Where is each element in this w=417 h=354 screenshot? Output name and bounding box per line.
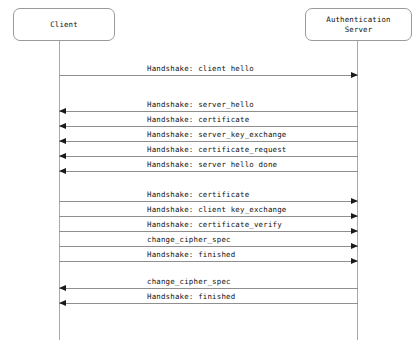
message-label: change_cipher_spec <box>147 277 231 286</box>
message-label: Handshake: client key_exchange <box>147 205 287 214</box>
message-label: Handshake: server_key_exchange <box>147 130 287 139</box>
arrow-left-icon <box>59 108 66 114</box>
arrow-right-icon <box>351 213 358 219</box>
message-line <box>59 75 358 76</box>
lifeline-client <box>59 41 60 340</box>
message-line <box>59 261 358 262</box>
message-line <box>59 231 358 232</box>
message-line <box>59 171 358 172</box>
arrow-right-icon <box>351 72 358 78</box>
arrow-left-icon <box>59 300 66 306</box>
message-label: Handshake: server_hello <box>147 100 254 109</box>
arrow-right-icon <box>351 243 358 249</box>
message-label: Handshake: client hello <box>147 64 254 73</box>
arrow-left-icon <box>59 285 66 291</box>
message-label: Handshake: certificate_verify <box>147 220 282 229</box>
message-line <box>59 201 358 202</box>
arrow-left-icon <box>59 168 66 174</box>
message-line <box>59 126 358 127</box>
lifeline-authentication-server <box>357 41 358 340</box>
message-label: Handshake: certificate <box>147 190 249 199</box>
participant-label-authentication-server: Authentication Server <box>326 15 390 35</box>
message-label: Handshake: finished <box>147 250 235 259</box>
message-line <box>59 216 358 217</box>
message-label: Handshake: certificate <box>147 115 249 124</box>
arrow-left-icon <box>59 153 66 159</box>
arrow-right-icon <box>351 228 358 234</box>
message-line <box>59 246 358 247</box>
participant-label-client: Client <box>50 20 78 30</box>
message-label: Handshake: certificate_request <box>147 145 287 154</box>
message-label: change_cipher_spec <box>147 235 231 244</box>
message-line <box>59 303 358 304</box>
sequence-diagram-canvas: Client Authentication Server Handshake: … <box>0 0 417 354</box>
message-label: Handshake: finished <box>147 292 235 301</box>
arrow-left-icon <box>59 123 66 129</box>
arrow-left-icon <box>59 138 66 144</box>
message-line <box>59 141 358 142</box>
participant-box-authentication-server[interactable]: Authentication Server <box>305 8 412 41</box>
arrow-right-icon <box>351 198 358 204</box>
message-line <box>59 288 358 289</box>
message-line <box>59 111 358 112</box>
message-label: Handshake: server hello done <box>147 160 277 169</box>
arrow-right-icon <box>351 258 358 264</box>
participant-box-client[interactable]: Client <box>13 8 115 41</box>
message-line <box>59 156 358 157</box>
